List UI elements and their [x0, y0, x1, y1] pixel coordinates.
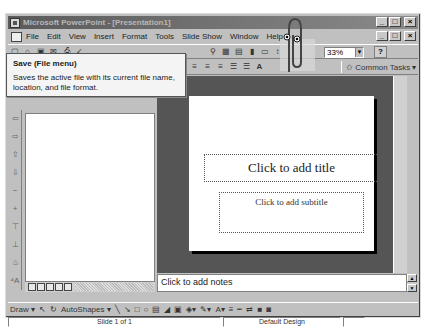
notes-scrollbar[interactable]: ▲ ▼ — [407, 274, 419, 292]
line-color-icon[interactable]: ✎▾ — [200, 305, 211, 314]
doc-restore-button[interactable]: □ — [389, 31, 401, 41]
slide-view-icon[interactable] — [46, 283, 54, 291]
slide-pane: Click to add title Click to add subtitle — [157, 76, 393, 273]
rectangle-icon[interactable]: □ — [135, 305, 140, 314]
align-center-icon[interactable]: ≡ — [202, 62, 213, 72]
wordart-icon[interactable]: ◢ — [164, 305, 170, 314]
arrow-icon[interactable]: ↘ — [124, 305, 131, 314]
status-bar: Slide 1 of 1 Default Design — [8, 317, 418, 328]
document-icon[interactable] — [11, 32, 22, 42]
slide[interactable]: Click to add title Click to add subtitle — [189, 96, 374, 251]
move-up-icon[interactable]: ⇧ — [9, 150, 21, 164]
zoom-dropdown[interactable]: 33% ▼ — [324, 47, 364, 58]
menu-bar: File Edit View Insert Format Tools Slide… — [8, 30, 418, 43]
office-assistant-clippy-icon[interactable] — [275, 17, 315, 77]
fill-color-icon[interactable]: ◈▾ — [186, 305, 196, 314]
chevron-down-icon[interactable]: ▼ — [355, 48, 363, 57]
normal-view-icon[interactable] — [28, 283, 36, 291]
outlining-toolbar: ⇦ ⇨ ⇧ ⇩ − + ⊤ ⊥ ♨ ⁴A — [8, 110, 22, 290]
tables-borders-icon[interactable]: ▦ — [220, 47, 231, 57]
zoom-value: 33% — [327, 48, 343, 57]
menu-file[interactable]: File — [26, 32, 39, 41]
scroll-down-icon[interactable]: ▼ — [407, 284, 417, 292]
text-box-icon[interactable]: ▤ — [152, 305, 160, 314]
show-formatting-icon[interactable]: ⁴A — [9, 276, 21, 290]
menu-format[interactable]: Format — [122, 32, 147, 41]
line-icon[interactable]: ╲ — [115, 305, 120, 314]
insert-chart-icon[interactable]: ▮ — [246, 47, 257, 57]
menu-view[interactable]: View — [69, 32, 86, 41]
common-tasks-icon: ✩ — [346, 63, 355, 72]
common-tasks-button[interactable]: ✩ Common Tasks ▾ — [341, 61, 416, 73]
horizontal-scrollbar[interactable] — [75, 283, 153, 291]
dash-style-icon[interactable]: ┅ — [237, 305, 242, 314]
subtitle-placeholder[interactable]: Click to add subtitle — [219, 192, 364, 233]
menu-slide-show[interactable]: Slide Show — [182, 32, 222, 41]
common-tasks-label: Common Tasks — [355, 63, 410, 72]
demote-icon[interactable]: ⇨ — [9, 132, 21, 146]
menu-edit[interactable]: Edit — [47, 32, 61, 41]
doc-close-button[interactable]: × — [404, 31, 416, 41]
free-rotate-icon[interactable]: ↻ — [50, 305, 57, 314]
slide-counter: Slide 1 of 1 — [8, 317, 221, 327]
menu-tools[interactable]: Tools — [155, 32, 174, 41]
help-button[interactable]: ? — [374, 46, 387, 58]
tooltip-body: Saves the active file with its current f… — [13, 73, 179, 93]
summary-slide-icon[interactable]: ♨ — [9, 258, 21, 272]
align-right-icon[interactable]: ≡ — [215, 62, 226, 72]
powerpoint-app-icon[interactable] — [10, 18, 20, 28]
clip-art-icon[interactable]: ▣ — [174, 305, 182, 314]
line-style-icon[interactable]: ≡ — [229, 305, 234, 314]
tooltip-title: Save (File menu) — [13, 59, 179, 68]
oval-icon[interactable]: ○ — [144, 305, 149, 314]
view-buttons — [25, 282, 155, 292]
slide-show-view-icon[interactable] — [64, 283, 72, 291]
notes-pane[interactable]: Click to add notes — [157, 274, 407, 292]
scroll-up-icon[interactable]: ▲ — [407, 274, 417, 282]
save-tooltip: Save (File menu) Saves the active file w… — [6, 53, 186, 97]
doc-minimize-button[interactable]: _ — [376, 31, 388, 41]
chevron-down-icon: ▾ — [410, 63, 416, 72]
close-button[interactable]: × — [404, 17, 416, 27]
drawing-toolbar: Draw ▾ ↖ ↻ AutoShapes ▾ ╲ ↘ □ ○ ▤ ◢ ▣ ◈▾… — [8, 302, 418, 316]
status-cell-empty — [343, 317, 365, 327]
collapse-all-icon[interactable]: ⊤ — [9, 222, 21, 236]
insert-table-icon[interactable]: ▤ — [233, 47, 244, 57]
menu-insert[interactable]: Insert — [94, 32, 114, 41]
draw-menu-button[interactable]: Draw ▾ — [10, 305, 35, 314]
insert-hyperlink-icon[interactable]: ⚲ — [207, 47, 218, 57]
autoshapes-label: AutoShapes — [61, 305, 105, 314]
vertical-scrollbar[interactable] — [393, 76, 407, 273]
outline-pane[interactable] — [25, 113, 155, 282]
window-title: Microsoft PowerPoint - [Presentation1] — [23, 18, 171, 27]
design-name: Default Design — [223, 317, 341, 327]
menu-window[interactable]: Window — [230, 32, 258, 41]
font-color-icon[interactable]: A▾ — [215, 305, 224, 314]
align-left-icon[interactable]: ≡ — [189, 62, 200, 72]
bullets-icon[interactable]: ☰ — [241, 62, 252, 72]
autoshapes-menu-button[interactable]: AutoShapes ▾ — [61, 305, 111, 314]
arrow-style-icon[interactable]: ⇄ — [246, 305, 253, 314]
numbering-icon[interactable]: ☰ — [228, 62, 239, 72]
minimize-button[interactable]: _ — [376, 17, 388, 27]
increase-font-icon[interactable]: A — [254, 62, 265, 72]
3d-icon[interactable]: ◙ — [266, 305, 271, 314]
outline-view-icon[interactable] — [37, 283, 45, 291]
title-bar: Microsoft PowerPoint - [Presentation1] _… — [8, 16, 418, 29]
collapse-icon[interactable]: − — [9, 186, 21, 200]
select-objects-icon[interactable]: ↖ — [39, 305, 46, 314]
promote-icon[interactable]: ⇦ — [9, 114, 21, 128]
expand-icon[interactable]: + — [9, 204, 21, 218]
draw-label: Draw — [10, 305, 29, 314]
move-down-icon[interactable]: ⇩ — [9, 168, 21, 182]
expand-all-icon[interactable]: ⊥ — [9, 240, 21, 254]
restore-button[interactable]: □ — [389, 17, 401, 27]
slide-sorter-view-icon[interactable] — [55, 283, 63, 291]
title-placeholder[interactable]: Click to add title — [204, 154, 379, 182]
shadow-icon[interactable]: ■ — [257, 305, 262, 314]
new-slide-icon[interactable]: ▭ — [259, 47, 270, 57]
